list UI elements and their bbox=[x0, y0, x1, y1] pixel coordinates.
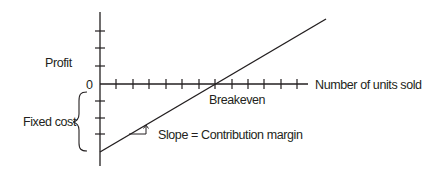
x-axis-label: Number of units sold bbox=[315, 78, 422, 92]
breakeven-diagram: Profit 0 Number of units sold Breakeven … bbox=[0, 0, 434, 180]
slope-label: Slope = Contribution margin bbox=[158, 128, 303, 142]
profit-label: Profit bbox=[45, 56, 73, 70]
breakeven-label: Breakeven bbox=[209, 93, 266, 107]
fixed-cost-label: Fixed cost bbox=[23, 115, 77, 129]
zero-label: 0 bbox=[86, 78, 93, 92]
